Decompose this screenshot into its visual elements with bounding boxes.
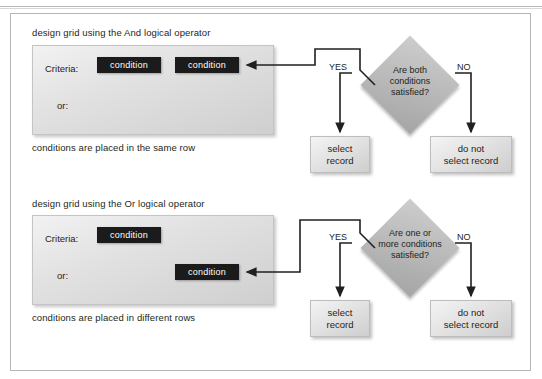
or-feedback-connector bbox=[247, 220, 375, 272]
and-feedback-connector bbox=[247, 49, 375, 85]
and-yes-connector bbox=[340, 73, 352, 132]
connector-overlay bbox=[0, 0, 542, 379]
and-no-connector bbox=[455, 73, 471, 132]
or-yes-connector bbox=[340, 243, 352, 296]
diagram-canvas: design grid using the And logical operat… bbox=[0, 0, 542, 379]
or-no-connector bbox=[455, 243, 471, 296]
